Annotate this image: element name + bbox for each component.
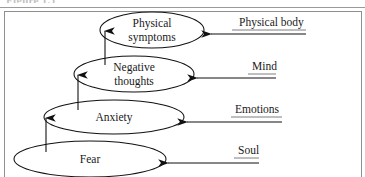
node-label-negative-thoughts-line1: Negative [113,61,155,74]
ellipse-node-anxiety: Anxiety [44,100,184,134]
side-label-mind: Mind [197,60,277,78]
node-label-negative-thoughts-line2: thoughts [114,75,154,88]
node-label-physical-symptoms-line2: symptoms [128,31,176,44]
side-label-text-mind: Mind [252,60,277,72]
ellipse-node-physical-symptoms: Physical symptoms [100,12,204,48]
node-label-physical-symptoms-line1: Physical [133,17,172,30]
side-label-text-physical-body: Physical body [239,16,304,29]
side-label-text-emotions: Emotions [235,103,280,115]
figure-container: Figure 1.1 Physical symptoms Negative th… [0,0,365,177]
side-label-physical-body: Physical body [211,16,306,34]
ellipse-node-fear: Fear [14,141,166,177]
diagram-canvas: Physical symptoms Negative thoughts Anxi… [0,0,365,177]
side-label-soul: Soul [168,144,259,163]
node-label-fear: Fear [80,153,101,165]
node-label-anxiety: Anxiety [95,111,132,124]
side-label-emotions: Emotions [187,103,282,122]
side-label-text-soul: Soul [238,144,259,156]
ellipse-node-negative-thoughts: Negative thoughts [74,56,194,92]
